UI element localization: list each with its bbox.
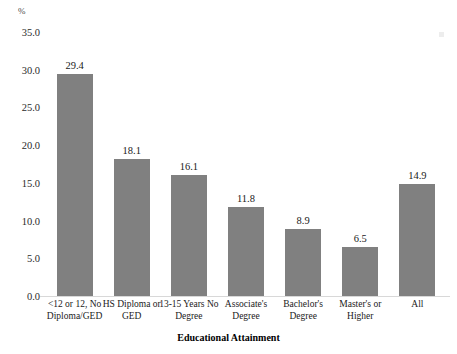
y-axis-tick-label: 0.0 [27,291,40,302]
x-axis-tick-label-line: Degree [157,311,221,323]
x-axis-tick-label-line: All [385,299,449,311]
x-axis-tick-label-line: Diploma/GED [43,311,107,323]
bar [342,247,378,296]
bar-group: 29.4 [47,32,103,296]
x-axis-tick-labels: <12 or 12, NoDiploma/GEDHS Diploma orGED… [46,299,446,333]
x-axis-tick-label: 13-15 Years NoDegree [157,299,221,322]
bar [228,207,264,296]
y-axis-tick-label: 10.0 [22,215,40,226]
bar-value-label: 16.1 [180,161,198,172]
bar [285,229,321,296]
bar [114,159,150,296]
x-axis-tick-label-line: <12 or 12, No [43,299,107,311]
x-axis-tick-label-line: HS Diploma or [100,299,164,311]
x-axis-baseline [40,296,450,297]
y-axis-tick-label: 25.0 [22,102,40,113]
bar [171,175,207,296]
bar [57,74,93,296]
bar-value-label: 18.1 [123,145,141,156]
x-axis-tick-label: Bachelor'sDegree [271,299,335,322]
bar-value-label: 8.9 [297,215,310,226]
x-axis-tick-label: <12 or 12, NoDiploma/GED [43,299,107,322]
x-axis-tick-label: All [385,299,449,311]
y-axis-tick-label: 20.0 [22,140,40,151]
x-axis-tick-label: Master's orHigher [328,299,392,322]
x-axis-tick-label-line: Bachelor's [271,299,335,311]
x-axis-title: Educational Attainment [0,332,457,343]
x-axis-tick-label: HS Diploma orGED [100,299,164,322]
y-axis-tick-labels: 35.030.025.020.015.010.05.00.0 [0,32,42,296]
bar-group: 8.9 [275,32,331,296]
x-axis-tick-label-line: Associate's [214,299,278,311]
corner-artifact [439,32,444,37]
x-axis-tick-label-line: Degree [271,311,335,323]
x-axis-tick-label-line: 13-15 Years No [157,299,221,311]
x-axis-tick-label-line: GED [100,311,164,323]
y-axis-tick-label: 30.0 [22,64,40,75]
x-axis-tick-label: Associate'sDegree [214,299,278,322]
y-axis-tick-label: 15.0 [22,177,40,188]
bar-value-label: 14.9 [408,170,426,181]
bar-group: 14.9 [389,32,445,296]
bar-series: 29.418.116.111.88.96.514.9 [46,32,446,296]
bar-value-label: 29.4 [65,60,83,71]
x-axis-tick-label-line: Degree [214,311,278,323]
bar-group: 18.1 [104,32,160,296]
bar [399,184,435,296]
bar-chart: % 35.030.025.020.015.010.05.00.0 29.418.… [0,0,457,354]
y-axis-unit-label: % [18,6,26,16]
y-axis-tick-label: 35.0 [22,27,40,38]
bar-group: 16.1 [161,32,217,296]
y-axis-tick-label: 5.0 [27,253,40,264]
bar-group: 11.8 [218,32,274,296]
bar-value-label: 6.5 [354,233,367,244]
x-axis-tick-label-line: Higher [328,311,392,323]
x-axis-tick-label-line: Master's or [328,299,392,311]
bar-value-label: 11.8 [237,193,255,204]
bar-group: 6.5 [332,32,388,296]
